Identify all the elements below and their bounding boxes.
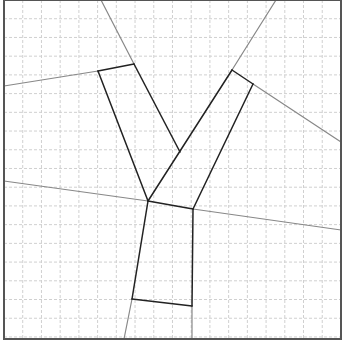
left-arm-outer-extension-top bbox=[101, 0, 134, 64]
right-arm-outer-edge bbox=[148, 70, 232, 201]
right-arm-outer-extension-top bbox=[232, 0, 276, 70]
left-arm-top-extension bbox=[4, 71, 98, 86]
left-arm-inner-edge bbox=[134, 64, 180, 152]
diagram-canvas bbox=[0, 0, 345, 351]
right-arm-top-edge bbox=[232, 70, 253, 84]
right-arm-inner-edge bbox=[193, 84, 253, 209]
stem-top-extension-left bbox=[4, 181, 148, 201]
stem-top-extension-right bbox=[193, 209, 341, 230]
stem-right-edge bbox=[192, 209, 193, 306]
left-arm-outer-edge bbox=[98, 71, 148, 201]
y-shape-polygon bbox=[98, 64, 253, 306]
stem-left-edge bbox=[132, 201, 148, 299]
stem-top-edge bbox=[148, 201, 193, 209]
stem-bottom-edge bbox=[132, 299, 192, 306]
stem-left-extension-bottom bbox=[124, 299, 132, 339]
dashed-grid bbox=[4, 0, 341, 339]
